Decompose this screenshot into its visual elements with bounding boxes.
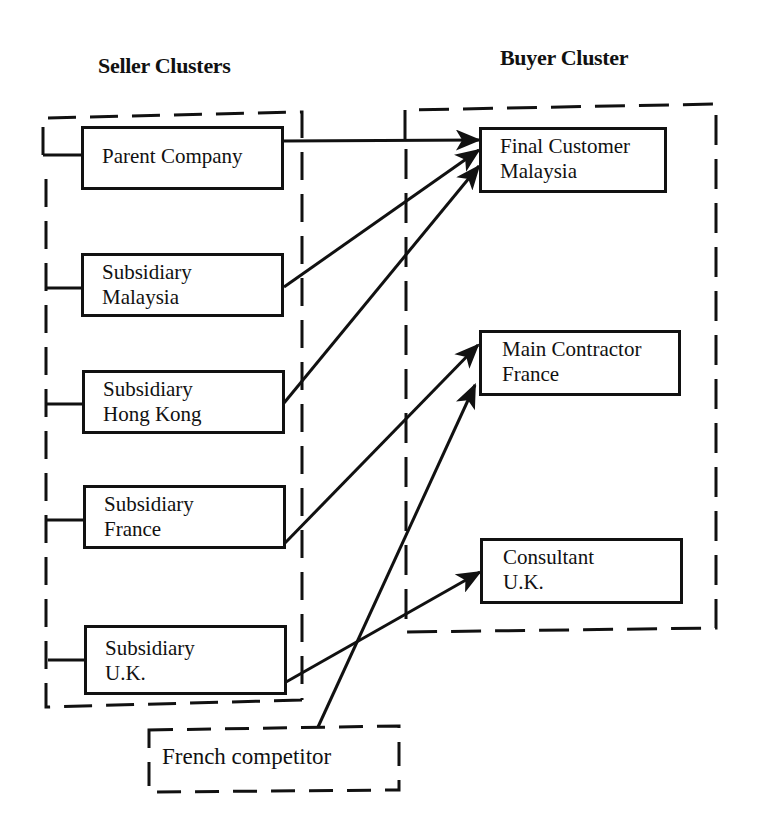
node-label-line1: Subsidiary	[102, 260, 281, 285]
node-label-line1: Subsidiary	[103, 377, 282, 402]
node-label-line2: Malaysia	[500, 159, 664, 184]
node-final-customer-malaysia[interactable]: Final Customer Malaysia	[479, 127, 667, 193]
node-subsidiary-hong-kong[interactable]: Subsidiary Hong Kong	[82, 370, 285, 434]
buyer-cluster-heading: Buyer Cluster	[500, 45, 628, 71]
node-label-line2: U.K.	[105, 661, 284, 686]
node-subsidiary-malaysia[interactable]: Subsidiary Malaysia	[81, 253, 284, 317]
edges	[282, 140, 480, 727]
edge-sub-malaysia-to-final-customer	[284, 150, 479, 287]
edge-competitor-to-main-contractor	[318, 385, 475, 727]
node-label: Parent Company	[102, 144, 281, 169]
node-consultant-uk[interactable]: Consultant U.K.	[480, 538, 683, 604]
node-main-contractor-france[interactable]: Main Contractor France	[479, 330, 681, 396]
node-label-line2: Malaysia	[102, 285, 281, 310]
node-label-line1: Main Contractor	[502, 337, 678, 362]
node-subsidiary-uk[interactable]: Subsidiary U.K.	[84, 625, 287, 695]
node-label-line2: France	[104, 517, 283, 542]
node-french-competitor[interactable]: French competitor	[162, 744, 331, 770]
seller-clusters-heading: Seller Clusters	[98, 53, 231, 79]
node-parent-company[interactable]: Parent Company	[81, 126, 284, 190]
node-label-line1: Subsidiary	[105, 636, 284, 661]
edge-sub-hongkong-to-final-customer	[284, 166, 479, 403]
node-label-line1: Final Customer	[500, 134, 664, 159]
node-label-line1: Subsidiary	[104, 492, 283, 517]
node-subsidiary-france[interactable]: Subsidiary France	[83, 485, 286, 549]
edge-parent-to-final-customer	[282, 140, 479, 141]
node-label-line2: U.K.	[503, 570, 680, 595]
seller-spine-connectors	[43, 155, 84, 660]
node-label-line2: Hong Kong	[103, 402, 282, 427]
node-label-line2: France	[502, 362, 678, 387]
node-label-line1: Consultant	[503, 545, 680, 570]
